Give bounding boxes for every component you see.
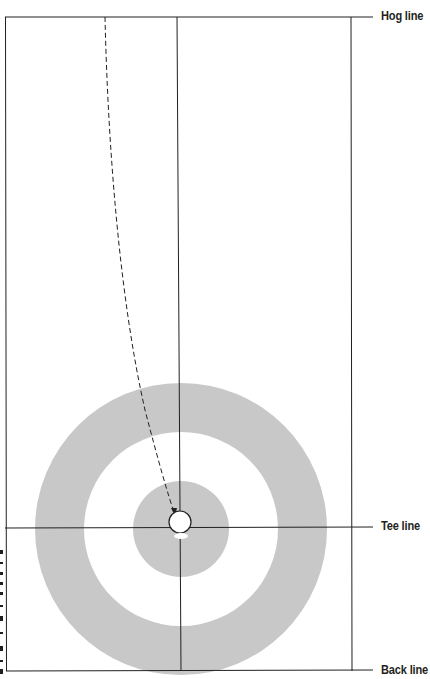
cropped-edge-text [0,548,5,678]
back-line-label: Back line [381,662,428,677]
button-gap [174,533,188,539]
left-side-line [6,17,7,671]
right-side-line [351,17,352,671]
tee-line-label: Tee line [381,518,420,533]
stone-in-button [169,511,191,533]
curling-sheet-diagram [0,0,430,679]
hog-line-label: Hog line [381,8,423,23]
back-line [6,670,373,671]
